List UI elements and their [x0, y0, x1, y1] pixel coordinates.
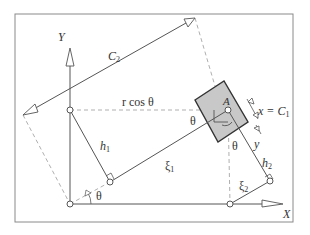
foot1-point: [107, 179, 113, 185]
point-a-label: A: [223, 96, 230, 107]
foot2-point: [267, 178, 273, 184]
c2-dimension-line: [32, 23, 186, 110]
xi2-label: ξ2: [239, 180, 248, 194]
origin-angle-arrow-icon: [85, 190, 91, 196]
c2-arrow-right-icon: [184, 18, 195, 27]
x-eq-c1-label: x = C1: [258, 105, 289, 119]
y-label: y: [254, 138, 259, 150]
dashed-construction-lines: [23, 18, 230, 204]
x-axis-label: X: [283, 208, 290, 220]
rotated-body: [195, 81, 248, 142]
theta-origin-label: θ: [96, 190, 102, 202]
theta-below-label: θ: [232, 140, 238, 152]
c2-arrow-left-icon: [23, 104, 38, 115]
xi2-base-point: [227, 201, 233, 207]
y-axis-label: Y: [58, 31, 65, 43]
frame: [15, 14, 293, 222]
h2-label: h2: [262, 157, 272, 171]
y-axis-arrow-icon: [66, 48, 74, 66]
pivot-point: [67, 107, 73, 113]
c2-label: C2: [108, 50, 120, 64]
x-axis-arrow-icon: [262, 200, 283, 207]
h1-label: h1: [100, 140, 110, 154]
r-cos-theta-label: r cos θ: [122, 96, 154, 108]
point-a: [225, 107, 231, 113]
origin-point: [67, 201, 73, 207]
xi1-label: ξ1: [165, 160, 174, 174]
theta-box-label: θ: [190, 115, 196, 127]
